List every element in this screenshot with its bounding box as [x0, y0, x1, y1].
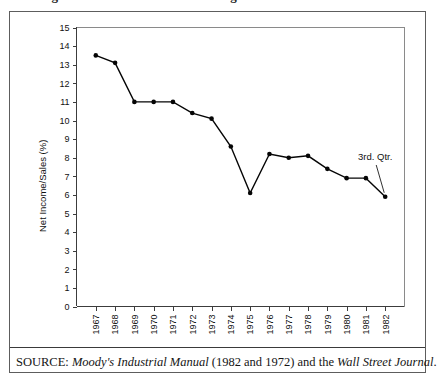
x-tick-label: 1981 — [361, 315, 371, 335]
y-tick-label: 10 — [59, 116, 69, 126]
y-tick-label: 15 — [59, 23, 69, 33]
source-note: SOURCE: Moody's Industrial Manual (1982 … — [16, 354, 426, 370]
data-point-1973 — [209, 116, 214, 121]
y-tick-label: 1 — [64, 283, 69, 293]
y-tick-label: 14 — [59, 41, 69, 51]
source-divider — [10, 347, 425, 348]
y-axis: 0123456789101112131415 — [59, 23, 76, 312]
chart-plot-area: 0123456789101112131415 19671968196919701… — [0, 0, 437, 384]
y-axis-label: Net Income/Sales (%) — [37, 140, 48, 232]
y-axis-tick-labels: 0123456789101112131415 — [59, 23, 69, 312]
source-suffix: . — [433, 355, 436, 369]
x-tick-label: 1975 — [245, 315, 255, 335]
third-quarter-annotation-label: 3rd. Qtr. — [358, 151, 392, 162]
y-axis-ticks — [73, 29, 77, 308]
y-tick-label: 12 — [59, 79, 69, 89]
data-point-1969 — [132, 100, 137, 105]
data-point-1967 — [93, 53, 98, 58]
data-series-line — [96, 55, 385, 196]
data-point-1972 — [190, 111, 195, 116]
x-tick-label: 1978 — [303, 315, 313, 335]
data-point-1975 — [248, 191, 253, 196]
y-tick-label: 4 — [64, 227, 69, 237]
x-tick-label: 1968 — [110, 315, 120, 335]
x-tick-label: 1970 — [149, 315, 159, 335]
y-tick-label: 13 — [59, 60, 69, 70]
x-tick-label: 1969 — [130, 315, 140, 335]
y-tick-label: 6 — [64, 190, 69, 200]
y-tick-label: 8 — [64, 153, 69, 163]
x-tick-label: 1972 — [188, 315, 198, 335]
y-tick-label: 9 — [64, 134, 69, 144]
data-point-1981 — [364, 176, 369, 181]
data-point-1970 — [151, 100, 156, 105]
data-point-1978 — [306, 154, 311, 159]
source-publication-2: Wall Street Journal — [337, 355, 433, 369]
x-tick-label: 1974 — [226, 315, 236, 335]
x-axis-tick-labels: 1967196819691970197119721973197419751976… — [91, 315, 390, 335]
source-publication-1: Moody's Industrial Manual — [72, 355, 209, 369]
source-prefix: SOURCE: — [16, 355, 69, 369]
x-tick-label: 1979 — [323, 315, 333, 335]
data-point-1974 — [229, 144, 234, 149]
data-point-1976 — [267, 152, 272, 157]
data-point-1979 — [325, 167, 330, 172]
y-tick-label: 2 — [64, 265, 69, 275]
y-tick-label: 7 — [64, 172, 69, 182]
x-tick-label: 1977 — [284, 315, 294, 335]
x-axis: 1967196819691970197119721973197419751976… — [77, 307, 405, 335]
x-tick-label: 1982 — [381, 315, 391, 335]
y-tick-label: 5 — [64, 209, 69, 219]
data-point-1971 — [171, 100, 176, 105]
data-point-1980 — [344, 176, 349, 181]
source-middle: (1982 and 1972) and the — [212, 355, 334, 369]
x-tick-label: 1971 — [168, 315, 178, 335]
y-tick-label: 3 — [64, 246, 69, 256]
y-tick-label: 11 — [60, 97, 69, 107]
x-axis-ticks — [97, 307, 386, 311]
x-tick-label: 1980 — [342, 315, 352, 335]
data-point-1982 — [383, 194, 388, 199]
data-point-1977 — [286, 155, 291, 160]
y-tick-label: 0 — [64, 302, 69, 312]
x-tick-label: 1967 — [91, 315, 101, 335]
plot-frame — [77, 28, 405, 307]
x-tick-label: 1976 — [265, 315, 275, 335]
line-chart-svg: 0123456789101112131415 19671968196919701… — [0, 0, 437, 384]
data-point-1968 — [113, 61, 118, 66]
x-tick-label: 1973 — [207, 315, 217, 335]
